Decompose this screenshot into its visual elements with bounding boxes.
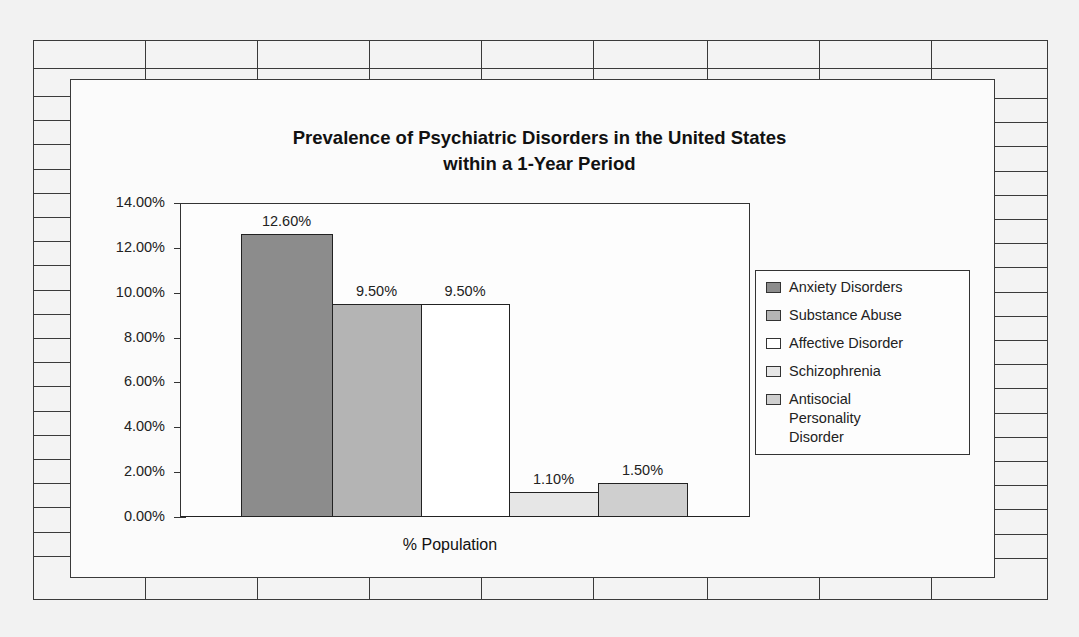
- grid-row-line: [33, 68, 1048, 69]
- grid-row-line: [995, 509, 1048, 510]
- y-tick-label: 10.00%: [85, 284, 165, 300]
- grid-row-line: [995, 243, 1048, 244]
- y-tick-label: 8.00%: [85, 329, 165, 345]
- grid-col-line: [481, 40, 482, 79]
- grid-row-line: [33, 241, 70, 242]
- grid-row-line: [995, 122, 1048, 123]
- grid-row-line: [33, 290, 70, 291]
- bar-data-label: 9.50%: [332, 283, 422, 299]
- legend-label-line: Personality: [789, 409, 964, 428]
- legend[interactable]: Anxiety DisordersSubstance AbuseAffectiv…: [755, 270, 970, 455]
- bar-schizophrenia[interactable]: [509, 492, 599, 517]
- grid-col-line: [707, 578, 708, 600]
- grid-col-line: [257, 578, 258, 600]
- grid-row-line: [995, 267, 1048, 268]
- grid-row-line: [33, 265, 70, 266]
- grid-row-line: [995, 534, 1048, 535]
- bar-antisocial-personality-disorder[interactable]: [598, 483, 688, 517]
- legend-swatch-icon: [766, 338, 781, 349]
- grid-row-line: [995, 364, 1048, 365]
- grid-col-line: [931, 578, 932, 600]
- grid-row-line: [995, 388, 1048, 389]
- grid-row-line: [995, 558, 1048, 559]
- grid-col-line: [369, 40, 370, 79]
- grid-row-line: [33, 532, 70, 533]
- grid-col-line: [707, 40, 708, 79]
- grid-col-line: [481, 578, 482, 600]
- grid-row-line: [33, 483, 70, 484]
- grid-row-line: [33, 435, 70, 436]
- legend-label: Affective Disorder: [789, 334, 964, 353]
- legend-label: AntisocialPersonalityDisorder: [789, 390, 964, 447]
- grid-row-line: [995, 98, 1048, 99]
- y-tick-label: 12.00%: [85, 239, 165, 255]
- y-tick-label: 6.00%: [85, 373, 165, 389]
- bar-data-label: 1.50%: [598, 462, 688, 478]
- chart-title-line-2: within a 1-Year Period: [0, 151, 1079, 177]
- grid-col-line: [819, 40, 820, 79]
- grid-row-line: [33, 193, 70, 194]
- legend-label-line: Affective Disorder: [789, 334, 964, 353]
- grid-row-line: [33, 556, 70, 557]
- grid-row-line: [995, 413, 1048, 414]
- grid-row-line: [995, 292, 1048, 293]
- grid-col-line: [257, 40, 258, 79]
- y-tick-mark: [174, 517, 186, 518]
- legend-swatch-icon: [766, 310, 781, 321]
- grid-row-line: [995, 219, 1048, 220]
- grid-col-line: [593, 40, 594, 79]
- legend-label-line: Substance Abuse: [789, 306, 964, 325]
- grid-row-line: [995, 461, 1048, 462]
- grid-col-line: [819, 578, 820, 600]
- grid-col-line: [145, 40, 146, 79]
- grid-row-line: [33, 314, 70, 315]
- grid-col-line: [593, 578, 594, 600]
- legend-swatch-icon: [766, 366, 781, 377]
- bar-data-label: 9.50%: [420, 283, 510, 299]
- grid-row-line: [33, 96, 70, 97]
- grid-row-line: [995, 437, 1048, 438]
- legend-label: Substance Abuse: [789, 306, 964, 325]
- bar-anxiety-disorders[interactable]: [241, 234, 333, 517]
- grid-row-line: [33, 217, 70, 218]
- grid-row-line: [995, 316, 1048, 317]
- x-axis-label: % Population: [360, 536, 540, 554]
- grid-row-line: [995, 195, 1048, 196]
- legend-swatch-icon: [766, 282, 781, 293]
- legend-swatch-icon: [766, 394, 781, 405]
- grid-col-line: [369, 578, 370, 600]
- bar-affective-disorder[interactable]: [421, 304, 510, 517]
- legend-label-line: Schizophrenia: [789, 362, 964, 381]
- grid-row-line: [995, 485, 1048, 486]
- legend-label-line: Antisocial: [789, 390, 964, 409]
- y-tick-label: 14.00%: [85, 194, 165, 210]
- grid-row-line: [995, 340, 1048, 341]
- chart-title: Prevalence of Psychiatric Disorders in t…: [0, 125, 1079, 177]
- grid-row-line: [33, 338, 70, 339]
- bar-data-label: 1.10%: [509, 471, 599, 487]
- legend-label: Schizophrenia: [789, 362, 964, 381]
- legend-label: Anxiety Disorders: [789, 278, 964, 297]
- grid-row-line: [33, 507, 70, 508]
- grid-row-line: [33, 459, 70, 460]
- grid-row-line: [33, 386, 70, 387]
- bar-substance-abuse[interactable]: [332, 304, 422, 517]
- grid-row-line: [33, 362, 70, 363]
- grid-col-line: [931, 40, 932, 79]
- grid-row-line: [33, 411, 70, 412]
- y-tick-label: 4.00%: [85, 418, 165, 434]
- y-tick-label: 2.00%: [85, 463, 165, 479]
- grid-row-line: [33, 120, 70, 121]
- bar-data-label: 12.60%: [242, 213, 332, 229]
- legend-label-line: Anxiety Disorders: [789, 278, 964, 297]
- grid-col-line: [145, 578, 146, 600]
- y-tick-label: 0.00%: [85, 508, 165, 524]
- legend-label-line: Disorder: [789, 428, 964, 447]
- chart-title-line-1: Prevalence of Psychiatric Disorders in t…: [0, 125, 1079, 151]
